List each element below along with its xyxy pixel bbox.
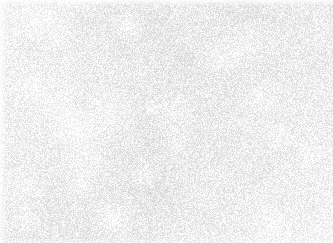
micrograph-viewport (0, 0, 333, 243)
histology-image (0, 0, 333, 243)
